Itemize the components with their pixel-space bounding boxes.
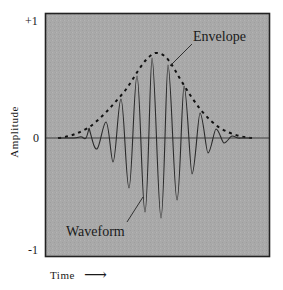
- y-tick-zero: 0: [33, 131, 39, 146]
- y-axis-title: Amplitude: [8, 102, 20, 162]
- right-arrow-icon: ⟶: [84, 266, 107, 283]
- waveform-label: Waveform: [66, 224, 125, 240]
- x-axis-title-text: Time: [50, 269, 75, 281]
- y-tick-top: +1: [25, 14, 38, 29]
- y-tick-bottom: -1: [28, 243, 38, 258]
- envelope-label: Envelope: [193, 29, 246, 45]
- x-axis-title: Time ⟶: [50, 264, 108, 283]
